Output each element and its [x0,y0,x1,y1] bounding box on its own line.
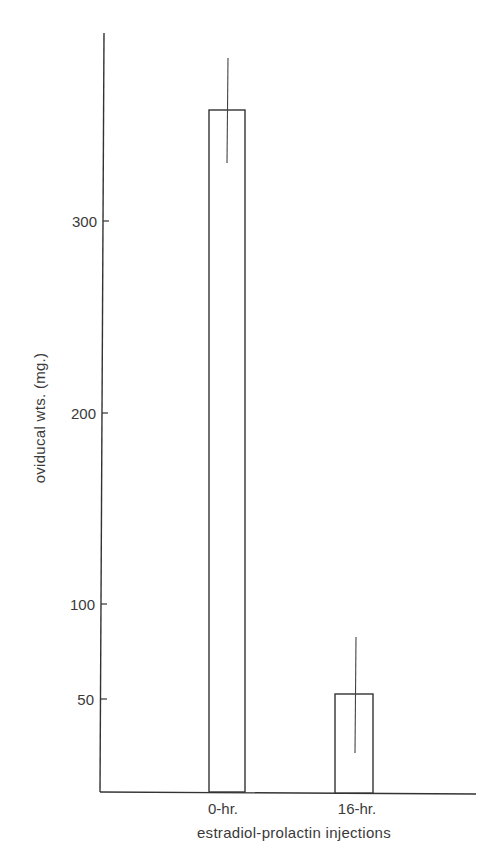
y-tick-label-100: 100 [70,596,95,613]
y-tick-label-50: 50 [77,691,94,708]
y-tick-label-300: 300 [72,213,97,230]
bar-16hr [335,694,373,793]
bar-chart: 300 200 100 50 oviducal wts. (mg.) 0-hr.… [0,0,494,855]
x-category-label-16hr: 16-hr. [338,800,376,817]
y-tick-label-200: 200 [71,405,96,422]
y-axis-label: oviducal wts. (mg.) [31,353,48,484]
x-axis-label: estradiol-prolactin injections [197,824,391,841]
x-axis [100,792,476,794]
x-category-label-0hr: 0-hr. [208,800,238,817]
bar-0hr [209,110,245,792]
